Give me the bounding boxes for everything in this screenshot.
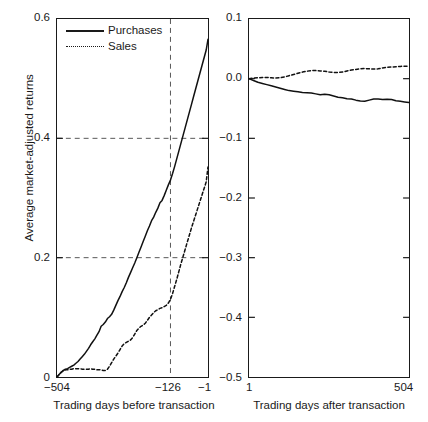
x-tick-label-minus504: −504: [44, 382, 70, 394]
plot-area-after: [249, 19, 409, 377]
series-line-sales: [57, 167, 208, 377]
legend-label-purchases: Purchases: [108, 24, 162, 37]
plot-panel-before: [56, 18, 209, 378]
y-axis-title: Average market-adjusted returns: [24, 58, 36, 258]
plot-area-before: [57, 19, 208, 377]
y-tick-label-0.6: 0.6: [6, 12, 50, 24]
legend: Purchases Sales: [64, 22, 172, 62]
y-tick-label-r-minus0.2: −0.2: [198, 192, 242, 204]
chart-figure: Average market-adjusted returns 0.6 0.4 …: [0, 0, 428, 422]
y-tick-label-0.2: 0.2: [6, 252, 50, 264]
y-tick-label-r-minus0.4: −0.4: [198, 312, 242, 324]
y-tick-label-r-minus0.5: −0.5: [198, 372, 242, 384]
series-line-purchases: [249, 79, 409, 103]
plot-panel-after: [248, 18, 410, 378]
y-tick-label-0.4: 0.4: [6, 132, 50, 144]
y-tick-label-r-0.1: 0.1: [198, 12, 242, 24]
y-tick-label-r-0.0: 0.0: [198, 72, 242, 84]
x-tick-label-minus1: −1: [198, 382, 211, 394]
y-tick-label-r-minus0.3: −0.3: [198, 252, 242, 264]
x-tick-label-504: 504: [394, 382, 413, 394]
legend-swatch-dotted-icon: [66, 46, 104, 47]
x-tick-label-minus126: −126: [155, 382, 181, 394]
x-tick-label-1: 1: [246, 382, 252, 394]
y-tick-label-r-minus0.1: −0.1: [198, 132, 242, 144]
legend-label-sales: Sales: [108, 40, 137, 53]
x-axis-title-after: Trading days after transaction: [229, 400, 428, 412]
series-line-sales: [249, 66, 409, 79]
x-axis-title-before: Trading days before transaction: [34, 400, 234, 412]
legend-swatch-solid-icon: [66, 30, 104, 32]
series-line-purchases: [57, 39, 208, 377]
